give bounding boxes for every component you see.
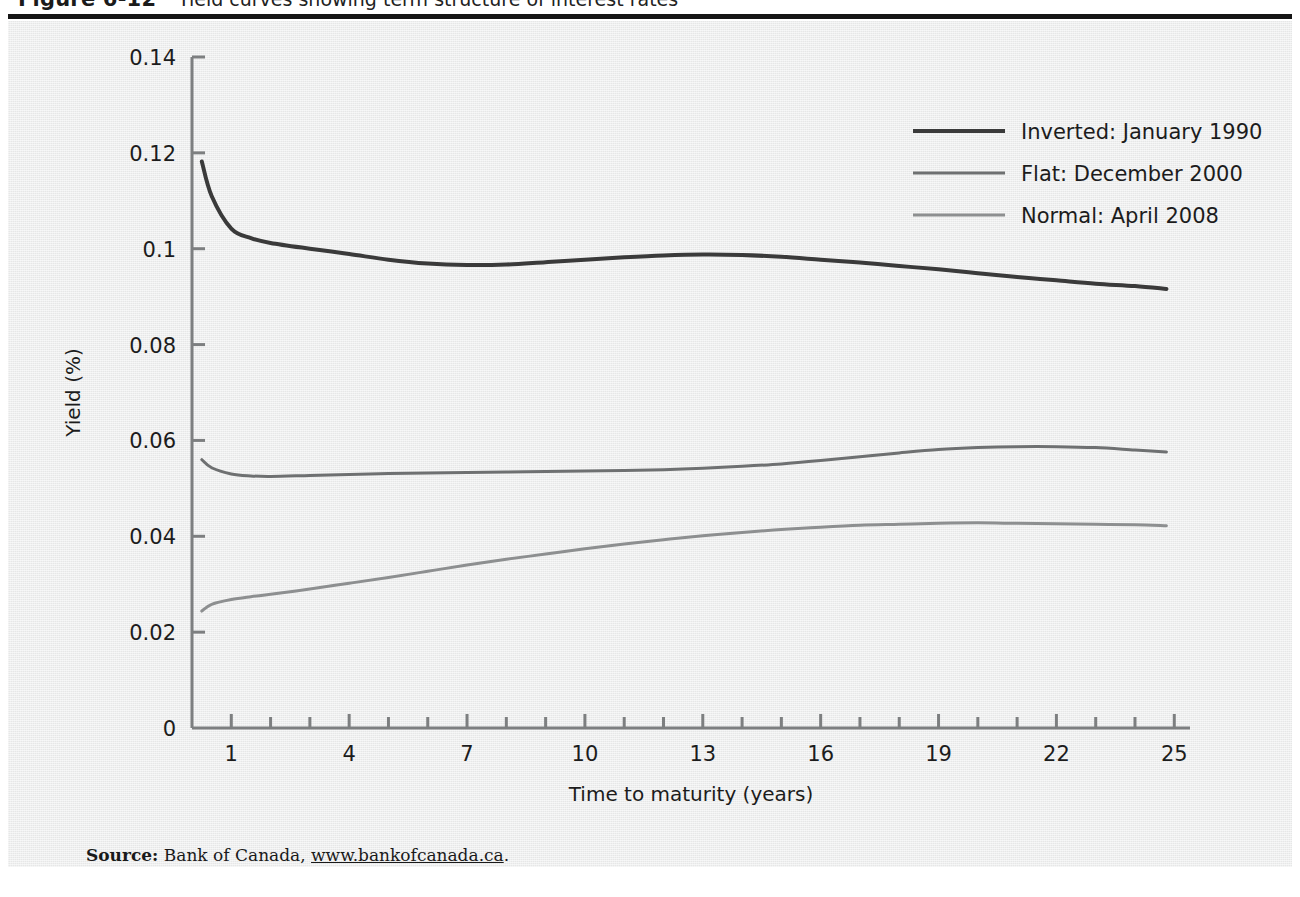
source-url[interactable]: www.bankofcanada.ca xyxy=(311,845,504,865)
figure-panel: Inverted: January 1990Flat: December 200… xyxy=(8,21,1292,867)
figure-heading: Figure 6-12 Yield curves showing term st… xyxy=(0,0,1300,13)
y-tick-label: 0.14 xyxy=(129,46,176,70)
x-tick-label: 7 xyxy=(460,742,473,766)
y-tick-label: 0.08 xyxy=(129,334,176,358)
axis-layer xyxy=(192,57,1190,728)
x-tick-label: 22 xyxy=(1043,742,1070,766)
y-tick-label: 0.02 xyxy=(129,621,176,645)
source-text: Bank of Canada, xyxy=(158,845,311,865)
y-axis-title: Yield (%) xyxy=(61,348,85,438)
y-tick-label: 0 xyxy=(163,717,176,741)
x-tick-label: 19 xyxy=(925,742,952,766)
y-tick-label: 0.1 xyxy=(143,238,176,262)
source-line: Source: Bank of Canada, www.bankofcanada… xyxy=(86,845,509,865)
yield-curve-chart: Inverted: January 1990Flat: December 200… xyxy=(8,21,1292,867)
x-axis-title: Time to maturity (years) xyxy=(568,782,813,806)
legend-label-0: Inverted: January 1990 xyxy=(1021,120,1262,144)
x-tick-label: 10 xyxy=(572,742,599,766)
legend-label-2: Normal: April 2008 xyxy=(1021,204,1219,228)
heading-rule xyxy=(8,14,1292,19)
series-line-2 xyxy=(202,523,1167,611)
y-tick-label: 0.04 xyxy=(129,525,176,549)
x-tick-label: 1 xyxy=(225,742,238,766)
figure-title: Yield curves showing term structure of i… xyxy=(178,0,678,10)
source-period: . xyxy=(504,845,509,865)
series-layer xyxy=(202,161,1167,611)
labels-layer: 00.020.040.060.080.10.120.14147101316192… xyxy=(61,46,1188,806)
legend-layer: Inverted: January 1990Flat: December 200… xyxy=(913,120,1262,228)
figure-number: Figure 6-12 xyxy=(18,0,156,11)
x-tick-label: 16 xyxy=(807,742,834,766)
y-tick-label: 0.12 xyxy=(129,142,176,166)
x-tick-label: 25 xyxy=(1161,742,1188,766)
source-label: Source: xyxy=(86,845,158,865)
legend-label-1: Flat: December 2000 xyxy=(1021,162,1243,186)
x-tick-label: 13 xyxy=(689,742,716,766)
y-tick-label: 0.06 xyxy=(129,429,176,453)
chart-svg: Inverted: January 1990Flat: December 200… xyxy=(8,21,1292,867)
x-tick-label: 4 xyxy=(342,742,355,766)
series-line-1 xyxy=(202,447,1167,477)
figure-page: Figure 6-12 Yield curves showing term st… xyxy=(0,0,1300,897)
